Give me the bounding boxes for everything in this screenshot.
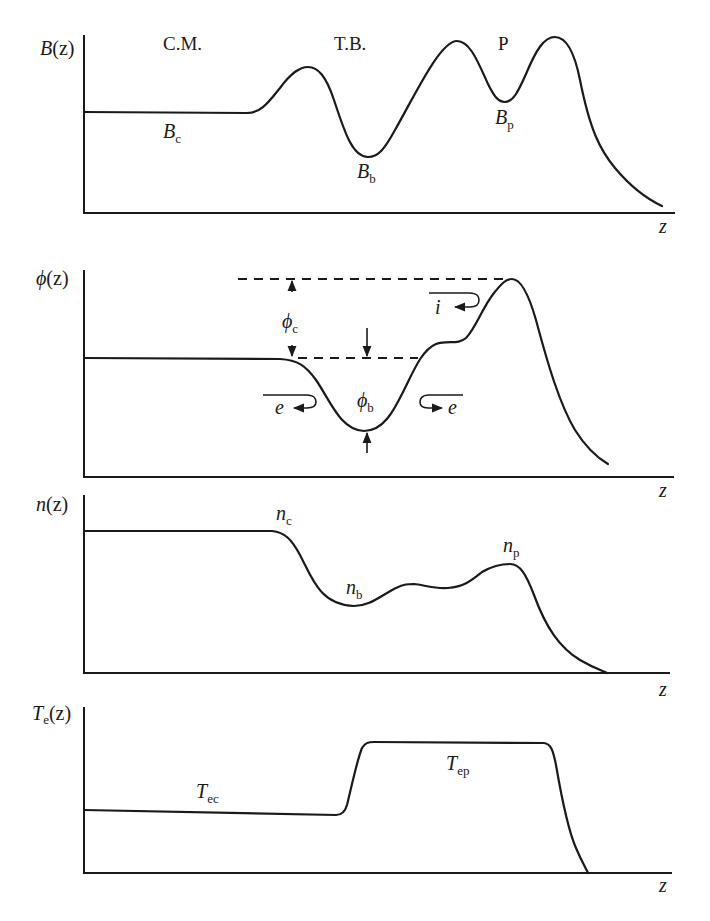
panel-potential: ϕ(z) z e e i ϕc ϕb <box>36 267 674 501</box>
axis-Te <box>84 707 672 873</box>
annotation-n-b: nb <box>346 576 363 602</box>
y-axis-label-Te: Te(z) <box>32 702 71 727</box>
annotation-phi-c: ϕc <box>282 310 298 336</box>
electron-reflection-left-arrow-icon <box>263 395 316 408</box>
curve-Te <box>84 742 588 873</box>
curve-n <box>84 531 607 673</box>
annotation-n-c: nc <box>276 502 292 528</box>
y-axis-label-phi: ϕ(z) <box>36 267 69 290</box>
annotation-T-ec: Tec <box>196 780 219 806</box>
y-axis-label-B: B(z) <box>40 37 74 60</box>
x-axis-label: z <box>658 479 667 501</box>
annotation-n-p: np <box>503 534 520 560</box>
annotation-phi-b: ϕb <box>357 389 374 415</box>
annotation-B-c: Bc <box>163 120 181 146</box>
panel-density: n(z) z nc nb np <box>36 493 670 700</box>
annotation-B-p: Bp <box>495 106 514 132</box>
label-electron-right: e <box>448 396 457 418</box>
label-ion: i <box>435 296 441 318</box>
y-axis-label-n: n(z) <box>36 493 68 516</box>
curve-phi <box>84 279 608 464</box>
panel-electron-temperature: Te(z) z Tec Tep <box>32 702 672 896</box>
panel-magnetic-field: B(z) z C.M. T.B. P Bc Bb Bp <box>40 33 675 237</box>
region-label-plug: P <box>498 33 509 54</box>
axis-n <box>84 495 670 673</box>
x-axis-label: z <box>658 678 667 700</box>
label-electron-left: e <box>275 396 284 418</box>
x-axis-label: z <box>658 215 667 237</box>
annotation-B-b: Bb <box>357 160 376 186</box>
region-label-thermal-barrier: T.B. <box>334 33 366 54</box>
x-axis-label: z <box>658 874 667 896</box>
annotation-T-ep: Tep <box>446 752 469 778</box>
region-label-central-cell: C.M. <box>163 33 202 54</box>
figure-canvas: B(z) z C.M. T.B. P Bc Bb Bp ϕ(z) z e e <box>0 0 710 921</box>
